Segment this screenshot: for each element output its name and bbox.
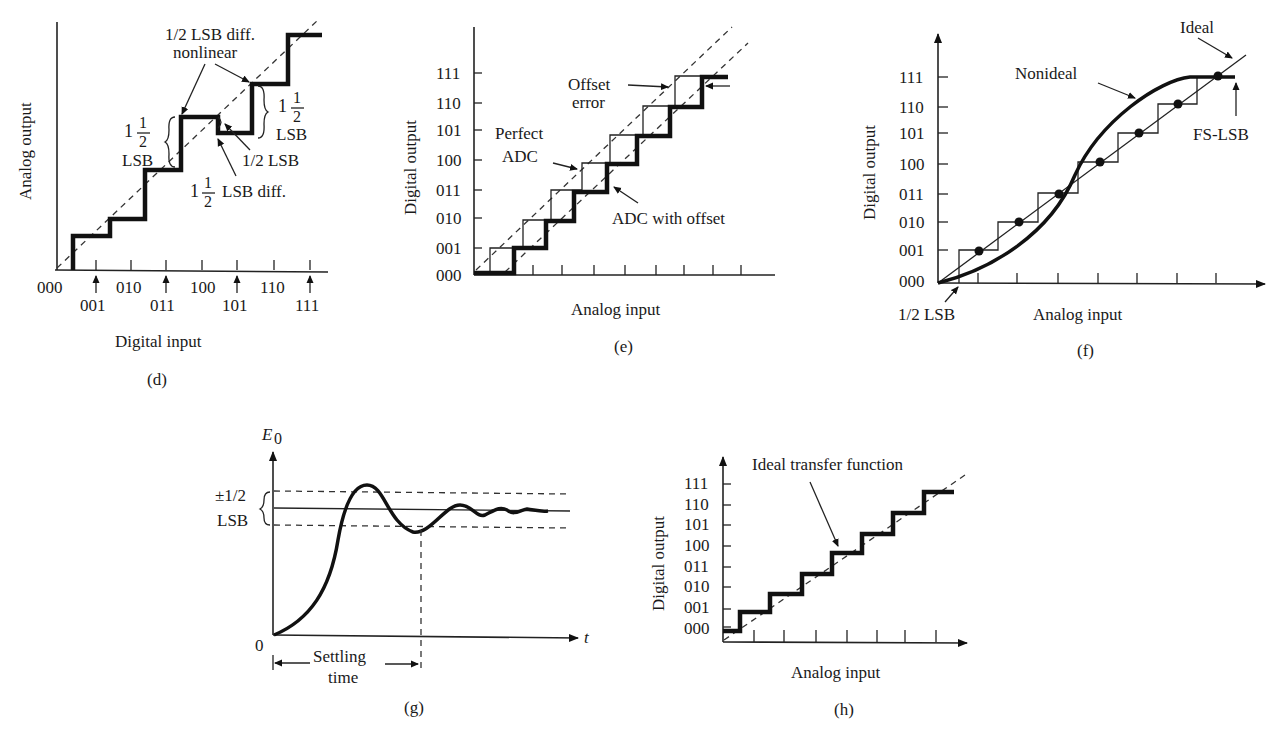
d-diff-one: 1 <box>190 181 199 201</box>
d-arrow-icon <box>225 124 250 150</box>
g-lower-band <box>274 525 570 528</box>
panel-h: 111 110 101 100 011 010 001 000 Ideal tr… <box>649 455 968 719</box>
f-x-axis <box>938 283 1265 284</box>
e-label-offset-1: Offset <box>568 75 610 94</box>
d-diff-text: LSB diff. <box>222 182 286 201</box>
h-ideal-line <box>724 473 968 640</box>
h-caption: (h) <box>834 700 854 719</box>
f-ytick: 010 <box>899 213 925 232</box>
d-right-half-num: 1 <box>293 89 301 106</box>
e-arrow-icon <box>553 163 577 169</box>
d-left-lsb: LSB <box>122 151 153 170</box>
e-x-ticks <box>533 265 741 275</box>
e-label-offset-2: error <box>572 93 605 112</box>
g-origin: 0 <box>255 636 264 655</box>
e-ytick: 010 <box>436 209 462 228</box>
f-xlabel: Analog input <box>1033 305 1123 324</box>
d-diff-half-num: 1 <box>204 174 212 191</box>
h-x-axis <box>723 642 967 643</box>
d-ylabel: Analog output <box>16 102 35 200</box>
e-caption: (e) <box>614 337 633 356</box>
e-label-perfect-2: ADC <box>502 147 538 166</box>
f-ytick: 100 <box>899 155 925 174</box>
f-caption: (f) <box>1077 341 1094 360</box>
d-brace-icon <box>165 117 175 167</box>
f-ytick: 110 <box>899 98 924 117</box>
f-arrow-icon <box>1098 83 1135 98</box>
e-ytick: 110 <box>436 94 461 113</box>
d-caption: (d) <box>147 370 167 389</box>
g-brace-icon <box>260 492 270 525</box>
e-ytick: 001 <box>436 239 462 258</box>
d-left-half-num: 1 <box>139 114 147 131</box>
e-ytick: 111 <box>436 64 460 83</box>
d-xtick: 010 <box>116 278 142 297</box>
f-label-fs-lsb: FS-LSB <box>1193 125 1249 144</box>
g-response-curve <box>274 485 548 635</box>
e-label-with-offset: ADC with offset <box>612 209 725 228</box>
d-label-nonlinear-2: nonlinear <box>173 43 238 62</box>
f-ideal-staircase <box>959 77 1235 283</box>
panel-g: E 0 t 0 Settling time ±1/2 LSB (g) <box>215 425 590 717</box>
e-ytick: 011 <box>436 181 461 200</box>
d-right-half-den: 2 <box>293 108 301 125</box>
f-ytick: 001 <box>899 241 925 260</box>
d-xtick: 111 <box>295 296 319 315</box>
panel-d: 1/2 LSB diff. nonlinear 1 1 2 LSB 1 1 2 … <box>16 20 328 389</box>
panel-e: 111 110 101 100 011 010 001 000 Offset e… <box>401 27 775 356</box>
f-ylabel: Digital output <box>860 125 879 220</box>
h-ytick: 101 <box>684 515 710 534</box>
d-xtick: 110 <box>260 278 285 297</box>
e-label-perfect-1: Perfect <box>495 124 543 143</box>
d-arrow-icon <box>182 64 205 114</box>
d-xtick: 100 <box>190 278 216 297</box>
d-brace-icon <box>258 86 268 138</box>
d-xtick: 000 <box>37 278 63 297</box>
d-label-nonlinear-1: 1/2 LSB diff. <box>165 25 255 44</box>
g-x-axis <box>273 635 578 638</box>
f-label-ideal: Ideal <box>1180 18 1214 37</box>
h-xlabel: Analog input <box>791 663 881 682</box>
h-ytick: 010 <box>684 577 710 596</box>
h-arrow-icon <box>810 482 838 546</box>
d-left-half-den: 2 <box>139 133 147 150</box>
h-ylabel: Digital output <box>649 516 668 611</box>
g-ylabel: E <box>261 425 273 444</box>
g-caption: (g) <box>404 698 424 717</box>
f-arrow-icon <box>945 287 958 302</box>
f-arrow-icon <box>1198 38 1232 58</box>
h-y-ticks <box>723 484 731 627</box>
h-ytick: 111 <box>684 474 708 493</box>
h-ytick: 100 <box>684 536 710 555</box>
f-ytick: 111 <box>899 68 923 87</box>
h-ytick: 011 <box>684 557 709 576</box>
g-upper-band <box>274 491 570 494</box>
e-ytick: 101 <box>436 121 462 140</box>
d-xtick: 101 <box>222 296 248 315</box>
d-diff-half-den: 2 <box>204 193 212 210</box>
h-ytick: 001 <box>684 598 710 617</box>
g-ylabel-sub: 0 <box>274 430 282 447</box>
f-x-ticks <box>978 273 1216 283</box>
d-arrow-icon <box>215 64 249 82</box>
f-ytick: 011 <box>899 185 924 204</box>
e-ytick: 100 <box>436 151 462 170</box>
e-ylabel: Digital output <box>401 120 420 215</box>
h-transfer-staircase <box>723 492 954 631</box>
panel-f: 111 110 101 100 011 010 001 000 Ideal No… <box>860 18 1265 360</box>
g-label-band-2: LSB <box>217 511 248 530</box>
e-y-ticks <box>474 73 482 248</box>
d-right-lsb: LSB <box>276 125 307 144</box>
f-y-ticks <box>938 77 948 250</box>
h-label-ideal-tf: Ideal transfer function <box>752 455 904 474</box>
h-ytick: 110 <box>684 495 709 514</box>
g-xlabel: t <box>584 628 590 647</box>
g-label-band-1: ±1/2 <box>215 486 246 505</box>
e-arrow-icon <box>614 187 638 203</box>
f-label-nonideal: Nonideal <box>1015 64 1078 83</box>
d-right-one: 1 <box>278 96 287 116</box>
h-ytick: 000 <box>684 619 710 638</box>
e-arrow-icon <box>628 85 668 87</box>
e-xlabel: Analog input <box>571 300 661 319</box>
d-arrow-icon <box>218 139 236 176</box>
